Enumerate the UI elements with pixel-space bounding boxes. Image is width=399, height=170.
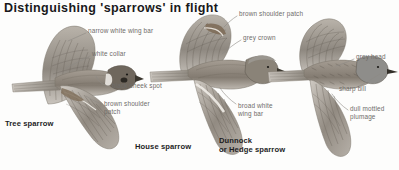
annotation-dull-mottled-plumage: dull mottled plumage — [350, 105, 384, 121]
annotation-grey-crown: grey crown — [243, 34, 276, 42]
annotation-narrow-white-wing-bar: narrow white wing bar — [88, 27, 153, 35]
annotation-grey-head: grey head — [356, 53, 386, 61]
annotation-brown-shoulder-patch-tree: brown shoulder patch — [104, 100, 150, 116]
caption-house-sparrow: House sparrow — [135, 142, 191, 151]
annotation-black-cheek-spot: black cheek spot — [112, 82, 162, 90]
annotation-white-collar: white collar — [92, 50, 126, 58]
page-title: Distinguishing 'sparrows' in flight — [4, 1, 218, 15]
dunnock-illustration — [268, 19, 398, 157]
annotation-broad-white-wing-bar: broad white wing bar — [238, 102, 273, 118]
annotation-brown-shoulder-patch-house: brown shoulder patch — [239, 10, 303, 18]
illustration-plate: Distinguishing 'sparrows' in flight narr… — [0, 0, 399, 170]
sharp-bill-mark — [387, 69, 398, 74]
caption-tree-sparrow: Tree sparrow — [5, 119, 53, 128]
caption-dunnock: Dunnock or Hedge sparrow — [219, 136, 285, 155]
annotation-sharp-bill: sharp bill — [339, 85, 366, 93]
